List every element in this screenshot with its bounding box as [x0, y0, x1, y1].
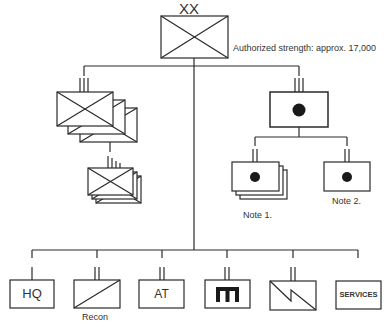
battalion-stack: [88, 156, 141, 203]
brigade-stack: [57, 78, 137, 142]
services-label: SERVICES: [336, 290, 381, 299]
division-symbol: [161, 16, 228, 58]
recon-unit: [74, 267, 120, 308]
at-label: AT: [139, 287, 184, 301]
strength-annotation: Authorized strength: approx. 17,000: [233, 43, 376, 53]
division-echelon-marker: XX: [179, 0, 199, 17]
recon-label: Recon: [82, 312, 108, 322]
note-1-label: Note 1.: [243, 210, 272, 220]
artillery-regiment: [270, 78, 328, 127]
note-2-label: Note 2.: [332, 196, 361, 206]
signal-unit: [270, 267, 316, 310]
artillery-battalion: [324, 149, 370, 191]
artillery-battalion-stack: [232, 149, 287, 199]
hq-label: HQ: [10, 286, 54, 301]
engineer-icon: [216, 287, 239, 302]
